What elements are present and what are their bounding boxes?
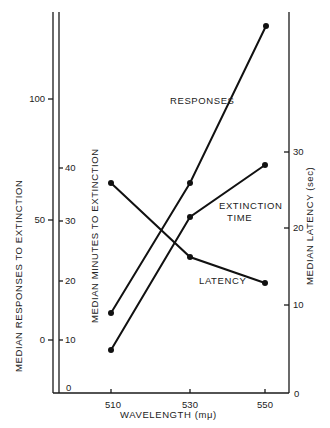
y-right-axis-label: MEDIAN LATENCY (sec) [304,167,315,285]
chart: 100 50 0 40 30 20 10 0 30 20 10 0 510 53… [0,0,330,428]
tick-label: 50 [34,214,45,225]
tick-label: 0 [40,334,45,345]
tick-label: 510 [105,399,121,410]
tick-label: 10 [293,299,304,310]
tick-label: 20 [65,275,76,286]
y-inner-axis-label: MEDIAN MINUTES TO EXTINCTION [89,148,100,323]
extinction-time-point [108,347,114,353]
latency-point [108,180,114,186]
series-lines [111,26,266,350]
tick-label: 0 [294,388,299,399]
tick-label: 550 [257,399,273,410]
extinction-time-point [262,162,268,168]
tick-label: 100 [29,93,45,104]
tick-label: 30 [293,146,304,157]
extinction-time-point [187,214,193,220]
latency-point [187,254,193,260]
x-axis-label: WAVELENGTH (mμ) [120,409,217,420]
y-outer-axis-label: MEDIAN RESPONSES TO EXTINCTION [13,180,24,372]
extinction-time-label-line2: TIME [227,212,252,223]
tick-label: 20 [293,222,304,233]
responses-point [108,310,114,316]
latency-point [262,280,268,286]
tick-label: 10 [65,334,76,345]
responses-line [111,26,266,313]
tick-label: 0 [66,382,71,393]
data-points [108,23,269,353]
tick-label: 30 [65,215,76,226]
latency-label: LATENCY [199,275,246,286]
responses-point [263,23,269,29]
outer-tick-labels: 100 50 0 [29,93,45,345]
inner-tick-labels: 40 30 20 10 0 [65,162,76,393]
latency-line [111,183,265,283]
extinction-time-label-line1: EXTINCTION [219,200,283,211]
tick-label: 40 [65,162,76,173]
responses-point [187,180,193,186]
responses-label: RESPONSES [170,95,235,106]
right-tick-labels: 30 20 10 0 [293,146,304,399]
